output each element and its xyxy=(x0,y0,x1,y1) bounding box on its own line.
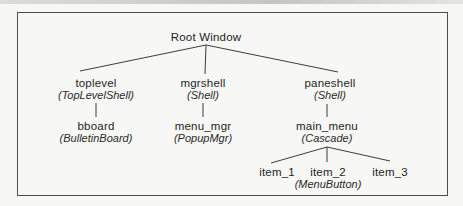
node-paneshell-class: (Shell) xyxy=(304,90,355,101)
node-item_1-label: item_1 xyxy=(259,166,295,178)
node-bboard-class: (BulletinBoard) xyxy=(60,133,133,144)
node-toplevel-label: toplevel xyxy=(58,77,134,89)
node-paneshell-label: paneshell xyxy=(304,77,355,89)
node-root-window: Root Window xyxy=(171,31,242,43)
node-toplevel-class: (TopLevelShell) xyxy=(58,90,134,101)
node-item_3: item_3 xyxy=(372,166,408,178)
widget-tree-diagram: Root Window toplevel (TopLevelShell) mgr… xyxy=(0,0,463,206)
node-item_3-label: item_3 xyxy=(372,166,408,178)
node-main_menu: main_menu (Cascade) xyxy=(296,120,358,144)
node-item_2: item_2 (MenuButton) xyxy=(295,166,362,190)
node-main_menu-label: main_menu xyxy=(296,120,358,132)
node-mgrshell-label: mgrshell xyxy=(180,77,225,89)
node-mgrshell-class: (Shell) xyxy=(180,90,225,101)
node-toplevel: toplevel (TopLevelShell) xyxy=(58,77,134,101)
node-mgrshell: mgrshell (Shell) xyxy=(180,77,225,101)
node-item_2-class: (MenuButton) xyxy=(295,179,362,190)
node-paneshell: paneshell (Shell) xyxy=(304,77,355,101)
node-menu_mgr-label: menu_mgr xyxy=(174,120,232,132)
node-item_2-label: item_2 xyxy=(295,166,362,178)
node-root-window-label: Root Window xyxy=(171,31,242,43)
node-menu_mgr-class: (PopupMgr) xyxy=(174,133,232,144)
node-main_menu-class: (Cascade) xyxy=(296,133,358,144)
node-item_1: item_1 xyxy=(259,166,295,178)
node-menu_mgr: menu_mgr (PopupMgr) xyxy=(174,120,232,144)
node-bboard: bboard (BulletinBoard) xyxy=(60,120,133,144)
scan-artifact-band xyxy=(0,0,463,4)
node-bboard-label: bboard xyxy=(60,120,133,132)
